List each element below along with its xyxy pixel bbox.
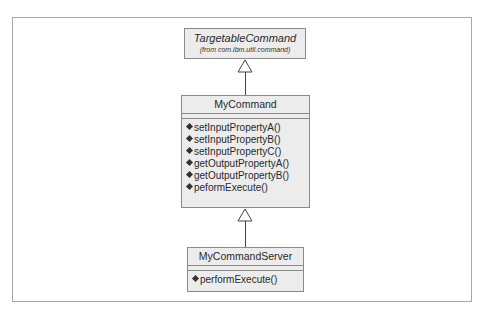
operations-compartment: setInputPropertyA() setInputPropertyB() … [182, 119, 309, 194]
operation-label: performExecute() [200, 274, 277, 286]
operation-label: setInputPropertyB() [194, 134, 281, 146]
public-operation-icon [186, 134, 193, 141]
class-name: MyCommand [182, 96, 309, 114]
public-operation-icon [192, 274, 199, 281]
operation: setInputPropertyB() [186, 134, 309, 146]
operation-label: peformExecute() [194, 182, 268, 194]
public-operation-icon [186, 146, 193, 153]
operation: getOutputPropertyB() [186, 170, 309, 182]
public-operation-icon [186, 122, 193, 129]
generalization-line [245, 72, 246, 95]
operations-compartment: performExecute() [188, 271, 303, 286]
operation: getOutputPropertyA() [186, 158, 309, 170]
operation: peformExecute() [186, 182, 309, 194]
generalization-arrow-icon [237, 208, 253, 222]
operation-label: setInputPropertyC() [194, 146, 281, 158]
public-operation-icon [186, 170, 193, 177]
operation-label: setInputPropertyA() [194, 122, 281, 134]
class-package-label: (from com.ibm.util.command) [185, 46, 305, 53]
operation-label: getOutputPropertyB() [194, 170, 289, 182]
operation: performExecute() [192, 274, 303, 286]
generalization-line [245, 221, 246, 247]
class-my-command-server[interactable]: MyCommandServer performExecute() [187, 247, 304, 292]
operation: setInputPropertyC() [186, 146, 309, 158]
class-name: MyCommandServer [188, 248, 303, 266]
class-targetable-command[interactable]: TargetableCommand (from com.ibm.util.com… [184, 28, 306, 59]
generalization-arrow-icon [237, 59, 253, 73]
public-operation-icon [186, 182, 193, 189]
public-operation-icon [186, 158, 193, 165]
operation-label: getOutputPropertyA() [194, 158, 289, 170]
operation: setInputPropertyA() [186, 122, 309, 134]
class-name: TargetableCommand [185, 32, 305, 44]
class-my-command[interactable]: MyCommand setInputPropertyA() setInputPr… [181, 95, 310, 208]
